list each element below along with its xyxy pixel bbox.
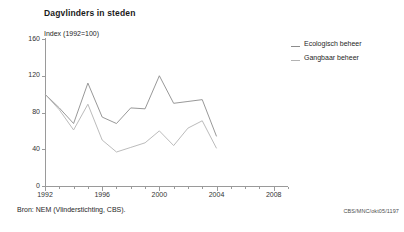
x-axis-major-tick-mark xyxy=(102,187,103,191)
source-note: Bron: NEM (Vlinderstichting, CBS). xyxy=(17,206,126,213)
x-axis-minor-tick-mark xyxy=(231,187,232,189)
x-axis-tick-label: 2004 xyxy=(202,191,232,198)
x-axis-tick-label: 1992 xyxy=(30,191,60,198)
x-axis-minor-tick-mark xyxy=(74,187,75,189)
x-axis-minor-tick-mark xyxy=(174,187,175,189)
series-line xyxy=(45,94,217,152)
x-axis-minor-tick-mark xyxy=(116,187,117,189)
x-axis-minor-tick-mark xyxy=(259,187,260,189)
x-axis-major-tick-mark xyxy=(159,187,160,191)
legend-item-label: Gangbaar beheer xyxy=(304,54,359,61)
x-axis-minor-tick-mark xyxy=(202,187,203,189)
legend-item-label: Ecologisch beheer xyxy=(304,40,362,47)
x-axis-minor-tick-mark xyxy=(245,187,246,189)
y-axis-tick-label: 0 xyxy=(18,182,40,189)
y-axis-tick-label: 120 xyxy=(18,71,40,78)
series-lines xyxy=(45,39,288,186)
chart-subtitle: Index (1992=100) xyxy=(44,30,99,37)
x-axis-minor-tick-mark xyxy=(188,187,189,189)
y-axis-tick-label: 80 xyxy=(18,108,40,115)
x-axis-minor-tick-mark xyxy=(59,187,60,189)
y-axis-tick-label: 40 xyxy=(18,145,40,152)
x-axis-tick-label: 2008 xyxy=(259,191,289,198)
figure-code: CBS/MNC/okt05/1197 xyxy=(343,208,399,214)
x-axis-major-tick-mark xyxy=(45,187,46,191)
plot-area xyxy=(45,39,288,186)
y-axis-tick-label: 160 xyxy=(18,35,40,42)
x-axis-minor-tick-mark xyxy=(88,187,89,189)
x-axis-tick-label: 2000 xyxy=(144,191,174,198)
x-axis-major-tick-mark xyxy=(274,187,275,191)
x-axis-major-tick-mark xyxy=(217,187,218,191)
butterfly-index-chart-figure: Dagvlinders in steden Index (1992=100) 0… xyxy=(0,0,404,232)
chart-title: Dagvlinders in steden xyxy=(44,8,135,18)
x-axis-minor-tick-mark xyxy=(131,187,132,189)
x-axis-line xyxy=(45,186,288,187)
series-line xyxy=(45,76,217,137)
x-axis-minor-tick-mark xyxy=(145,187,146,189)
legend-line-swatch xyxy=(291,46,300,47)
legend-line-swatch xyxy=(291,60,300,61)
x-axis-tick-label: 1996 xyxy=(87,191,117,198)
x-axis-minor-tick-mark xyxy=(288,187,289,189)
